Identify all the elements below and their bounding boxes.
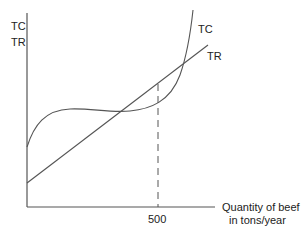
x-axis-label-line1: Quantity of beef — [222, 201, 300, 213]
tc-curve-label: TC — [198, 23, 213, 35]
y-axis-label-tr: TR — [11, 36, 26, 48]
tc-curve — [27, 10, 193, 147]
tr-line — [27, 45, 208, 183]
y-axis-label-tc: TC — [11, 20, 26, 32]
x-tick-500: 500 — [148, 213, 166, 225]
x-axis-label-line2: in tons/year — [229, 214, 286, 226]
tr-curve-label: TR — [207, 50, 222, 62]
